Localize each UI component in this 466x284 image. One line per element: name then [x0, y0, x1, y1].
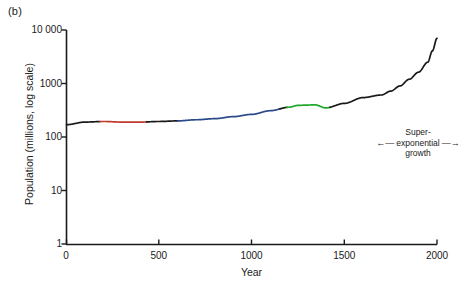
curve-segment [178, 109, 280, 121]
curve-segment [67, 122, 100, 125]
curve-segment [147, 121, 178, 122]
figure-panel-b: (b) Population (millions, log scale) Yea… [0, 0, 466, 284]
curve-segment [330, 38, 437, 107]
curve-segment [287, 105, 330, 108]
plot-area [0, 0, 466, 284]
population-curve [67, 38, 438, 124]
curve-segment [280, 107, 287, 109]
curve-segment [100, 121, 147, 122]
